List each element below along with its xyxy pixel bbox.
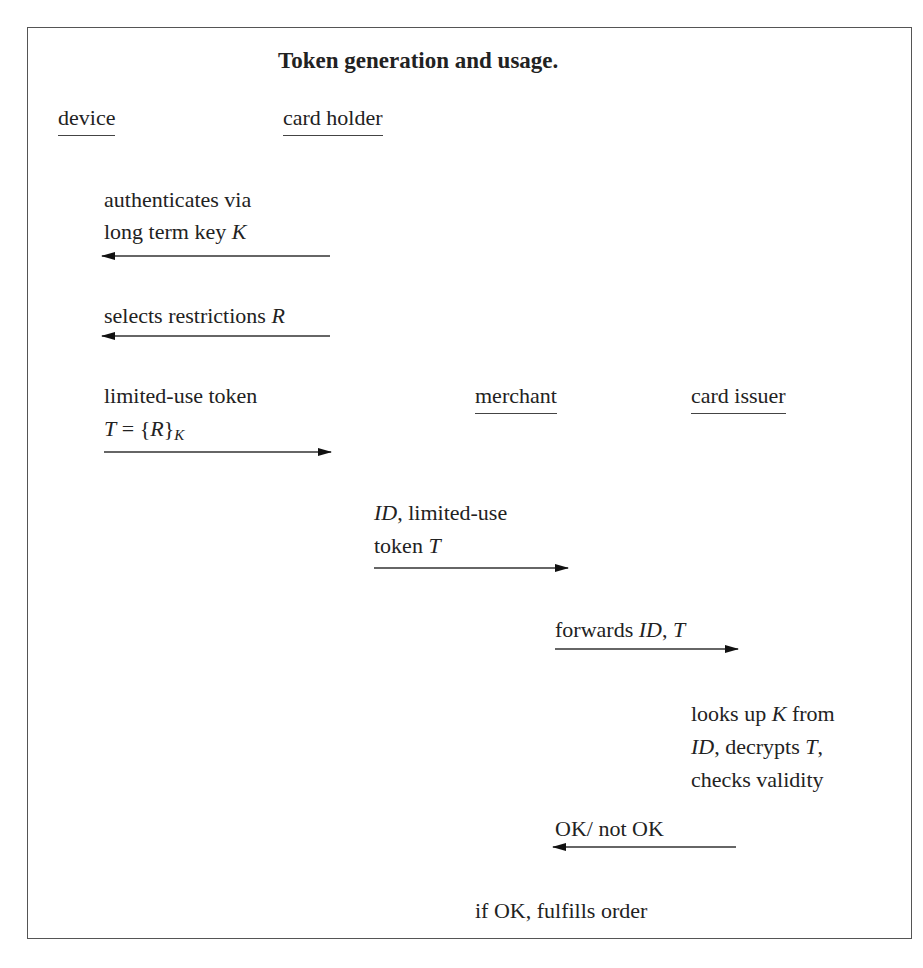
arrows-layer [0,0,923,968]
